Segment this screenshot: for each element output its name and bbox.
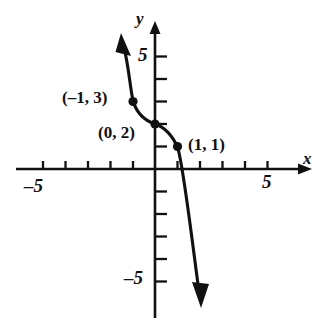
point-marker-0-2	[150, 119, 159, 128]
y-axis-name-label: y	[136, 10, 144, 27]
curve-arrowhead-up	[116, 33, 132, 56]
point-marker--1-3	[128, 97, 137, 106]
y-axis-tick-label-5: 5	[138, 45, 148, 64]
graph-figure: –5 5 5 –5 x y (–1, 3) (0, 2) (1, 1)	[0, 0, 325, 327]
point-marker-1-1	[173, 142, 182, 151]
point-label--1-3: (–1, 3)	[62, 89, 107, 106]
x-axis-tick-label-5: 5	[262, 172, 272, 191]
point-label-1-1: (1, 1)	[188, 136, 225, 153]
coordinate-plane-svg	[0, 0, 325, 327]
y-axis-tick-label--5: –5	[124, 268, 143, 287]
y-axis-arrowhead	[150, 21, 161, 34]
x-axis-name-label: x	[303, 150, 312, 167]
point-label-0-2: (0, 2)	[98, 124, 135, 141]
curve-arrowhead-down	[192, 282, 209, 308]
x-axis-tick-label--5: –5	[24, 176, 43, 195]
